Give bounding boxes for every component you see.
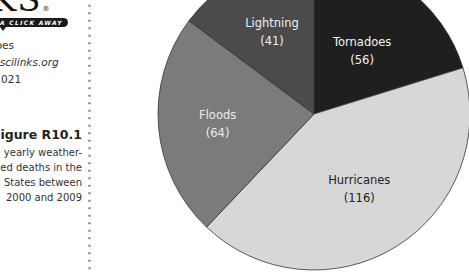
pie-chart: Tornadoes(56)Hurricanes(116)Floods(64)Li… bbox=[0, 0, 469, 275]
